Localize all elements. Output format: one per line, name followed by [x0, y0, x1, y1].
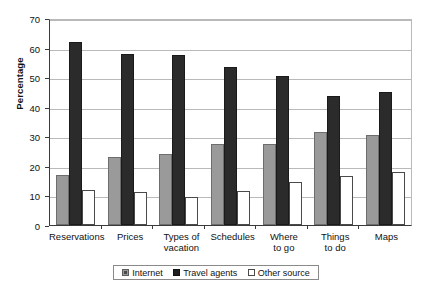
- x-tick-mark: [204, 225, 205, 229]
- y-tick-label: 0: [6, 221, 40, 232]
- bar-other: [185, 197, 198, 225]
- x-axis-label: Maps: [361, 231, 412, 253]
- bar-internet: [108, 157, 121, 225]
- x-axis-category-labels: ReservationsPricesTypes of vacationSched…: [49, 231, 412, 253]
- bar-group: [50, 20, 102, 225]
- bar-other: [134, 192, 147, 225]
- bar-group: [359, 20, 411, 225]
- y-tick-label: 40: [6, 102, 40, 113]
- bar-other: [340, 176, 353, 225]
- x-axis-label: Where to go: [258, 231, 309, 253]
- bar-other: [289, 182, 302, 225]
- legend-item-travel-agents: Travel agents: [173, 268, 237, 278]
- y-tick-label: 50: [6, 73, 40, 84]
- y-tick-label: 20: [6, 161, 40, 172]
- y-tick-label: 70: [6, 14, 40, 25]
- bar-group: [256, 20, 308, 225]
- bar-internet: [159, 154, 172, 225]
- bar-groups: [50, 20, 411, 225]
- bar-agents: [172, 55, 185, 225]
- x-axis-label: Reservations: [49, 231, 104, 253]
- y-tick-label: 60: [6, 43, 40, 54]
- legend-label-internet: Internet: [132, 268, 163, 278]
- bar-other: [82, 190, 95, 225]
- bar-agents: [224, 67, 237, 225]
- bar-agents: [327, 96, 340, 225]
- x-axis-label: Schedules: [207, 231, 258, 253]
- bar-other: [392, 172, 405, 225]
- y-tick-label: 30: [6, 132, 40, 143]
- legend-label-travel-agents: Travel agents: [183, 268, 237, 278]
- bar-internet: [314, 132, 327, 225]
- y-axis-ticks: 010203040506070: [0, 19, 49, 226]
- legend-label-other-source: Other source: [258, 268, 310, 278]
- legend-swatch-travel-agents: [173, 269, 180, 276]
- legend-swatch-other-source: [248, 269, 255, 276]
- y-tick-mark: [45, 226, 49, 227]
- x-axis-label: Types of vacation: [156, 231, 207, 253]
- bar-group: [153, 20, 205, 225]
- bar-group: [308, 20, 360, 225]
- bar-chart: Percentage 010203040506070 ReservationsP…: [0, 0, 426, 295]
- bar-internet: [211, 144, 224, 225]
- chart-legend: Internet Travel agents Other source: [113, 265, 319, 280]
- y-tick-label: 10: [6, 191, 40, 202]
- legend-item-internet: Internet: [122, 268, 163, 278]
- bar-group: [205, 20, 257, 225]
- x-axis-label: Things to do: [310, 231, 361, 253]
- bar-internet: [56, 175, 69, 225]
- bar-agents: [121, 54, 134, 226]
- bar-agents: [69, 42, 82, 225]
- bar-internet: [263, 144, 276, 225]
- x-tick-mark: [152, 225, 153, 229]
- x-tick-mark: [358, 225, 359, 229]
- bar-agents: [379, 92, 392, 225]
- x-tick-mark: [255, 225, 256, 229]
- plot-area: [49, 19, 412, 226]
- bar-internet: [366, 135, 379, 225]
- x-tick-mark: [101, 225, 102, 229]
- legend-item-other-source: Other source: [248, 268, 310, 278]
- bar-agents: [276, 76, 289, 225]
- x-tick-mark: [307, 225, 308, 229]
- legend-swatch-internet: [122, 269, 129, 276]
- bar-other: [237, 191, 250, 225]
- x-axis-label: Prices: [104, 231, 155, 253]
- bar-group: [102, 20, 154, 225]
